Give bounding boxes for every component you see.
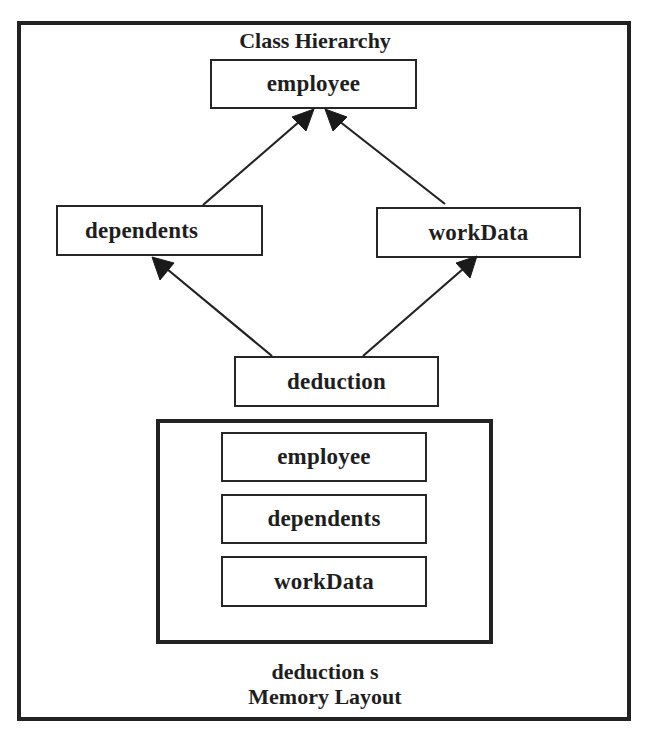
caption-line-2: Memory Layout [180,684,470,709]
arrow-workdata-to-employee [339,121,445,204]
caption-line-1: deduction s [180,659,470,684]
memory-part-label: employee [277,444,371,470]
arrow-dependents-to-employee [203,121,300,205]
memory-part-employee: employee [221,432,427,482]
memory-part-dependents: dependents [221,494,427,544]
memory-part-workdata: workData [221,556,427,607]
memory-part-label: dependents [267,506,380,532]
arrowhead-icon [292,109,314,131]
arrow-deduction-to-dependents [167,269,272,356]
arrowhead-icon [152,257,174,280]
arrowhead-icon [325,109,347,131]
memory-part-label: workData [274,569,374,595]
arrowhead-icon [456,256,477,278]
arrow-deduction-to-workdata [363,269,463,356]
memory-layout-caption: deduction s Memory Layout [180,659,470,709]
